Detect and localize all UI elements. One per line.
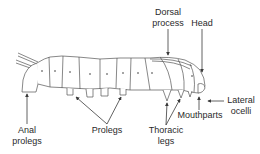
label-prolegs-text: Prolegs — [87, 125, 127, 136]
label-prolegs: Prolegs — [87, 125, 127, 136]
label-lateral-ocelli-line1: Lateral — [224, 95, 258, 106]
label-lateral-ocelli-line2: ocelli — [224, 106, 258, 117]
label-lateral-ocelli: Lateral ocelli — [224, 95, 258, 116]
caterpillar-body — [16, 53, 205, 101]
label-dorsal-process: Dorsal process — [148, 7, 188, 28]
label-thoracic-legs: Thoracic legs — [146, 125, 186, 146]
label-thoracic-legs-line1: Thoracic — [146, 125, 186, 136]
label-dorsal-process-line1: Dorsal — [148, 7, 188, 18]
label-anal-prolegs-line1: Anal — [9, 125, 45, 136]
label-mouthparts-text: Mouthparts — [176, 110, 224, 121]
label-head: Head — [188, 18, 216, 29]
label-dorsal-process-line2: process — [148, 18, 188, 29]
label-head-text: Head — [188, 18, 216, 29]
label-thoracic-legs-line2: legs — [146, 136, 186, 147]
label-anal-prolegs: Anal prolegs — [9, 125, 45, 146]
label-anal-prolegs-line2: prolegs — [9, 136, 45, 147]
label-mouthparts: Mouthparts — [176, 110, 224, 121]
